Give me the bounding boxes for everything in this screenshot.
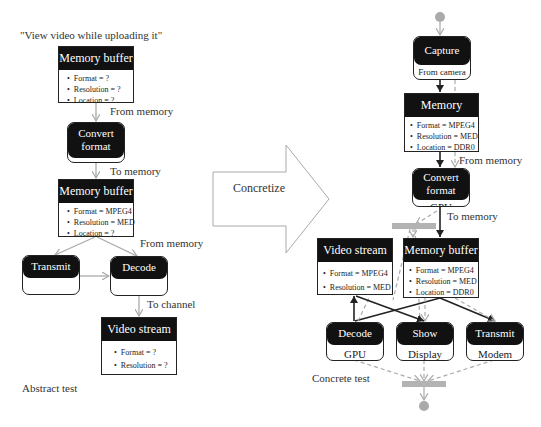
edge-label-from-memory: From memory [140, 237, 203, 249]
prop-format: Format = MPEG4 [67, 206, 133, 217]
edge-label-to-memory: To memory [110, 165, 161, 177]
transmit-header: Transmit [23, 256, 79, 278]
transmit-header: Transmit [467, 323, 523, 345]
abstract-scenario-title: "View video while uploading it" [20, 29, 162, 41]
prop-location: Location = DDR0 [410, 142, 478, 153]
prop-format: Format = MPEG4 [323, 267, 392, 281]
concretize-arrow-icon [212, 144, 330, 254]
prop-format: Format = MPEG4 [409, 265, 478, 276]
memory-buffer-props: Format = MPEG4 Resolution = MED Location… [405, 117, 478, 153]
abstract-memory-buffer-1[interactable]: Memory buffer Format = ? Resolution = ? … [58, 46, 134, 103]
concrete-transmit[interactable]: Transmit Modem [466, 322, 524, 361]
prop-format: Format = ? [114, 346, 176, 359]
abstract-test-caption: Abstract test [22, 382, 77, 394]
memory-buffer-header: Memory buffer [404, 239, 478, 262]
convert-format-title-2: format [70, 140, 122, 153]
concrete-decode[interactable]: Decode GPU [326, 322, 384, 361]
concrete-test-caption: Concrete test [312, 372, 370, 384]
concrete-memory-buffer-1[interactable]: Memory buffer Format = MPEG4 Resolution … [404, 93, 479, 152]
show-header: Show [397, 323, 453, 345]
concrete-show[interactable]: Show Display [396, 322, 454, 361]
prop-location: Location = ? [67, 228, 133, 239]
prop-resolution: Resolution = ? [114, 359, 176, 372]
concrete-memory-buffer-2[interactable]: Memory buffer Format = MPEG4 Resolution … [403, 238, 479, 298]
decode-header: Decode [111, 257, 167, 279]
prop-resolution: Resolution = MED [323, 281, 392, 295]
edge-label-from-memory: From memory [110, 105, 173, 117]
concrete-video-stream[interactable]: Video stream Format = MPEG4 Resolution =… [317, 238, 393, 295]
show-footer: Display [397, 345, 453, 361]
concretize-label: Concretize [233, 181, 285, 196]
edge-label-to-channel: To channel [147, 298, 195, 310]
abstract-decode[interactable]: Decode [110, 256, 168, 296]
convert-format-title-1: Convert [70, 127, 122, 140]
video-stream-header: Video stream [318, 239, 392, 262]
capture-footer: From camera [414, 65, 470, 79]
memory-buffer-props: Format = MPEG4 Resolution = MED Location… [59, 203, 133, 239]
decode-footer: GPU [327, 345, 383, 361]
prop-resolution: Resolution = MED [409, 276, 478, 287]
prop-format: Format = MPEG4 [410, 120, 478, 131]
prop-resolution: Resolution = ? [67, 84, 133, 95]
convert-format-header: Convert format [413, 169, 469, 200]
transmit-footer: Modem [467, 345, 523, 361]
edge-label-from-memory: From memory [459, 154, 522, 166]
video-stream-props: Format = MPEG4 Resolution = MED [318, 262, 392, 295]
prop-format: Format = ? [67, 73, 133, 84]
memory-buffer-header: Memory buffer [405, 94, 478, 117]
video-stream-header: Video stream [102, 318, 176, 341]
prop-resolution: Resolution = MED [67, 217, 133, 228]
video-stream-props: Format = ? Resolution = ? [102, 341, 176, 372]
abstract-transmit[interactable]: Transmit [22, 255, 80, 295]
convert-format-header: Convert format [68, 123, 124, 158]
memory-buffer-props: Format = ? Resolution = ? Location = ? [59, 70, 133, 106]
concrete-convert-format[interactable]: Convert format GPU [412, 168, 470, 207]
memory-buffer-header: Memory buffer [59, 47, 133, 70]
abstract-memory-buffer-2[interactable]: Memory buffer Format = MPEG4 Resolution … [58, 179, 134, 237]
convert-format-title-1: Convert [415, 171, 467, 184]
concrete-capture[interactable]: Capture From camera [413, 36, 471, 80]
capture-header: Capture [414, 37, 470, 65]
abstract-video-stream[interactable]: Video stream Format = ? Resolution = ? [101, 317, 177, 375]
convert-format-footer: GPU [413, 200, 469, 207]
prop-resolution: Resolution = MED [410, 131, 478, 142]
edge-label-to-memory: To memory [447, 210, 498, 222]
decode-header: Decode [327, 323, 383, 345]
memory-buffer-header: Memory buffer [59, 180, 133, 203]
convert-format-title-2: format [415, 184, 467, 197]
abstract-convert-format[interactable]: Convert format [67, 122, 125, 163]
prop-location: Location = DDR0 [409, 287, 478, 298]
memory-buffer-props: Format = MPEG4 Resolution = MED Location… [404, 262, 478, 298]
